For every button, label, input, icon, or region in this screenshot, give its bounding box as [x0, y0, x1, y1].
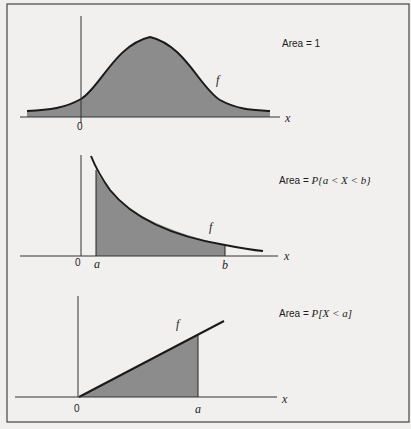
panel-linear [15, 296, 277, 397]
exp-shaded-area [96, 170, 225, 256]
origin-label: 0 [74, 404, 80, 414]
a-label: a [195, 403, 201, 415]
area-label: Area = 1 [282, 39, 320, 49]
panel-exponential [20, 155, 278, 256]
panel-normal [20, 16, 280, 123]
function-label: f [176, 318, 179, 330]
origin-label: 0 [77, 122, 83, 132]
b-label: b [222, 259, 228, 271]
area-label: Area = P{a < X < b} [279, 175, 371, 186]
function-label: f [216, 74, 219, 86]
origin-label: 0 [75, 258, 81, 268]
area-label-prefix: Area = [279, 175, 312, 186]
figure-frame [7, 4, 409, 422]
a-label: a [94, 258, 100, 270]
x-axis-label: x [284, 250, 289, 262]
figure-canvas [0, 0, 411, 429]
pdf-figure: 0 x f Area = 1 0 a b x f Area = P{a < X … [0, 0, 411, 429]
area-label: Area = P[X < a] [279, 308, 352, 319]
area-label-prefix: Area = [279, 308, 312, 319]
x-axis-label: x [285, 112, 290, 124]
x-axis-label: x [282, 393, 287, 405]
area-label-expression: P[X < a] [312, 307, 352, 319]
function-label: f [209, 221, 212, 233]
area-label-expression: P{a < X < b} [312, 174, 371, 186]
